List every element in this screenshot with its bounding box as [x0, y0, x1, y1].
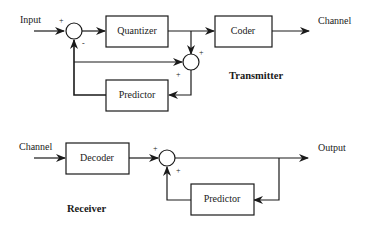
sum1-plus-sign: +: [59, 16, 64, 25]
sum2-top-plus-sign: +: [199, 48, 204, 57]
summing-junction-2: [183, 54, 199, 70]
coder-label: Coder: [231, 25, 256, 36]
receiver-output-label: Output: [318, 142, 346, 153]
summing-junction-1: [66, 23, 82, 39]
sum1-minus-sign: -: [82, 39, 85, 48]
receiver-input-label: Channel: [19, 141, 53, 152]
predictor-feedback-arrow: [74, 40, 106, 95]
receiver-predictor-label: Predictor: [204, 193, 241, 204]
transmitter-output-label: Channel: [318, 15, 352, 26]
transmitter-predictor-label: Predictor: [119, 89, 156, 100]
transmitter-title: Transmitter: [229, 70, 283, 81]
transmitter-input-label: Input: [20, 14, 41, 25]
decoder-label: Decoder: [80, 152, 115, 163]
sum2-left-plus-sign: +: [176, 70, 181, 79]
receiver-title: Receiver: [67, 203, 106, 214]
dpcm-block-diagram: Input + - Quantizer Coder Channel + + Pr…: [0, 0, 367, 232]
quantizer-label: Quantizer: [117, 25, 157, 36]
output-to-predictor-arrow: [254, 158, 279, 200]
transmitter-section: Input + - Quantizer Coder Channel + + Pr…: [20, 14, 352, 111]
receiver-section: Channel Decoder + + Output Predictor Rec…: [19, 141, 346, 215]
receiver-sum-plus-top: +: [153, 144, 158, 153]
receiver-sum-plus-bottom: +: [176, 166, 181, 175]
receiver-summing-junction: [159, 150, 175, 166]
